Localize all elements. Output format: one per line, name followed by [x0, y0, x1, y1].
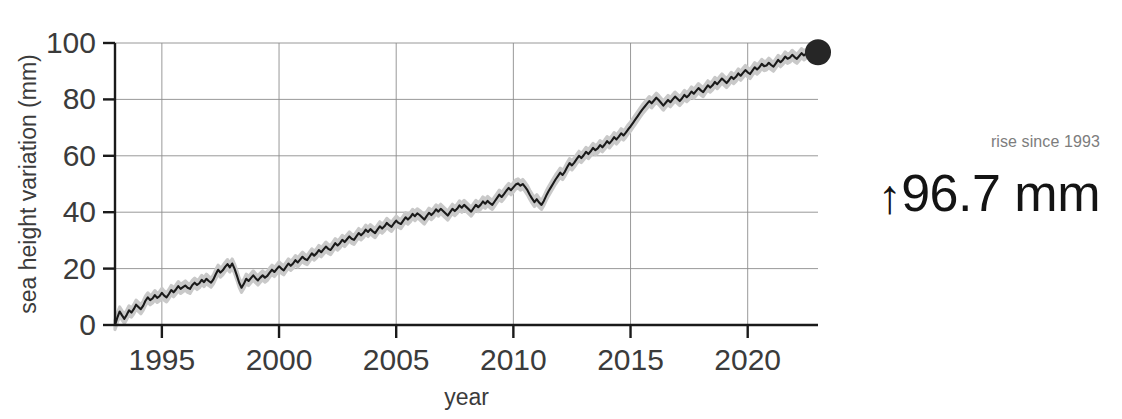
x-axis-title: year	[444, 384, 489, 410]
y-tick-label: 100	[46, 26, 96, 59]
y-tick-label: 60	[63, 139, 96, 172]
x-tick-label: 2000	[246, 343, 313, 376]
end-point-marker	[805, 39, 831, 65]
x-tick-label: 1995	[128, 343, 195, 376]
x-tick-label: 2010	[480, 343, 547, 376]
sea-level-line	[115, 52, 818, 325]
sea-level-chart-figure: 020406080100199520002005201020152020year…	[0, 0, 1122, 419]
x-tick-label: 2020	[714, 343, 781, 376]
y-tick-label: 20	[63, 252, 96, 285]
uncertainty-band	[115, 48, 818, 330]
x-tick-label: 2005	[363, 343, 430, 376]
up-arrow-icon: ↑	[878, 170, 902, 223]
x-tick-label: 2015	[597, 343, 664, 376]
data-series-group	[115, 48, 818, 330]
rise-value-readout: ↑96.7 mm	[878, 163, 1100, 227]
rise-since-caption: rise since 1993	[991, 133, 1100, 151]
rise-value-text: 96.7 mm	[901, 164, 1100, 222]
y-axis-title: sea height variation (mm)	[15, 54, 41, 314]
y-tick-label: 40	[63, 195, 96, 228]
y-tick-label: 80	[63, 82, 96, 115]
y-tick-label: 0	[79, 308, 96, 341]
